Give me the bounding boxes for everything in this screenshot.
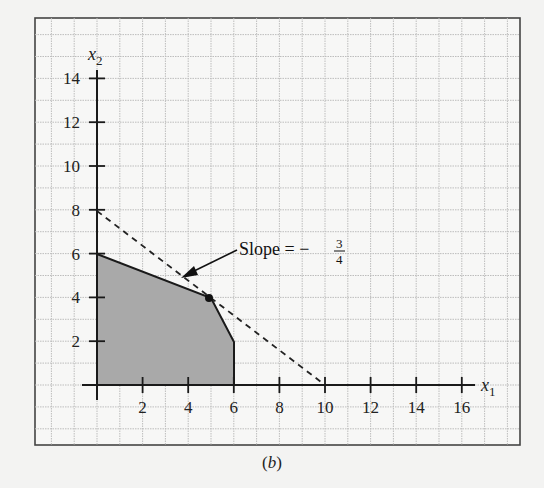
y-tick-label: 4 — [72, 288, 81, 307]
y-tick-label: 12 — [63, 113, 80, 132]
lp-feasible-region-chart: 2468101214162468101214 x1 x2 Slope = − 3… — [0, 0, 544, 488]
y-tick-label: 10 — [63, 157, 80, 176]
y-tick-label: 8 — [72, 201, 81, 220]
slope-fraction-numerator: 3 — [336, 236, 343, 251]
x-tick-label: 12 — [362, 398, 379, 417]
x-tick-label: 4 — [184, 398, 193, 417]
slope-fraction-denominator: 4 — [336, 252, 343, 267]
x-tick-label: 10 — [317, 398, 334, 417]
y-tick-label: 6 — [72, 245, 81, 264]
slope-annotation-label: Slope = − — [239, 239, 309, 259]
x-tick-label: 16 — [453, 398, 470, 417]
figure-caption: (b) — [0, 453, 544, 473]
x-tick-label: 8 — [275, 398, 284, 417]
x-tick-label: 14 — [408, 398, 426, 417]
optimal-point-marker — [205, 294, 213, 302]
x-tick-label: 2 — [138, 398, 147, 417]
y-tick-label: 2 — [72, 332, 81, 351]
y-tick-label: 14 — [63, 69, 81, 88]
x-tick-label: 6 — [230, 398, 239, 417]
